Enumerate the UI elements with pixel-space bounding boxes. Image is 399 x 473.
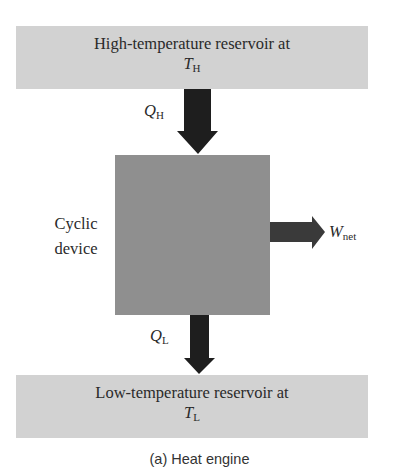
heat-in-label: QH	[144, 101, 164, 121]
heat-in-arrow-icon	[177, 89, 218, 154]
low-reservoir-label: Low-temperature reservoir at	[16, 375, 368, 403]
cyclic-device-label: Cyclic device	[46, 214, 106, 259]
low-reservoir-temperature: TL	[16, 403, 368, 423]
heat-out-label: QL	[150, 326, 169, 346]
heat-out-arrow-icon	[184, 315, 215, 374]
work-out-label: Wnet	[329, 222, 356, 242]
work-out-arrow-icon	[270, 216, 325, 249]
figure-caption: (a) Heat engine	[0, 451, 399, 467]
low-temperature-reservoir: Low-temperature reservoir at TL	[16, 375, 368, 438]
